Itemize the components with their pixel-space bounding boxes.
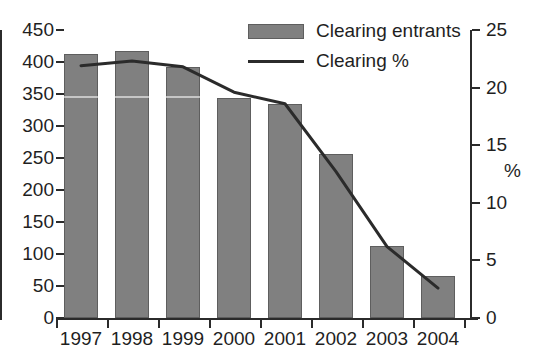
legend-bar-swatch-icon bbox=[248, 24, 304, 39]
legend-item-clearing-entrants: Clearing entrants bbox=[248, 18, 461, 44]
right-axis-unit-label: % bbox=[504, 160, 521, 182]
chart-container: 450400350300250200150100500 2520151050 1… bbox=[0, 0, 536, 362]
chart-legend: Clearing entrants Clearing % bbox=[248, 18, 461, 78]
line-path bbox=[81, 61, 438, 288]
legend-line-swatch-icon bbox=[248, 54, 304, 69]
legend-label-clearing-percent: Clearing % bbox=[316, 48, 409, 74]
legend-label-clearing-entrants: Clearing entrants bbox=[316, 18, 461, 44]
legend-item-clearing-percent: Clearing % bbox=[248, 48, 461, 74]
